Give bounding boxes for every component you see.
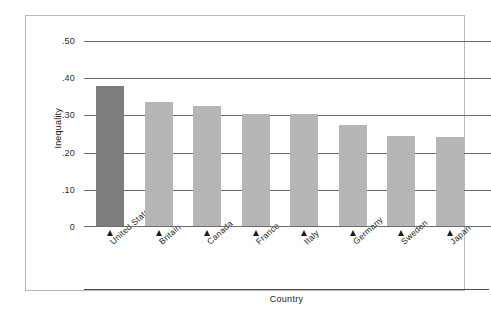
bar (96, 86, 124, 227)
bar-group: Canada (193, 41, 221, 227)
gridline: 0 (84, 227, 491, 228)
bar-group: Italy (290, 41, 318, 227)
bar (145, 102, 173, 227)
y-tick-label: .40 (62, 73, 75, 83)
bar-group: Germany (339, 41, 367, 227)
y-tick-label: 0 (70, 222, 75, 232)
y-tick-label: .50 (62, 36, 75, 46)
bar-group: Japan (436, 41, 464, 227)
y-tick-label: .30 (62, 110, 75, 120)
bar (436, 137, 464, 227)
bar (242, 114, 270, 227)
bar-group: France (242, 41, 270, 227)
bar (290, 114, 318, 227)
bar (339, 125, 367, 227)
bar-group: United States (96, 41, 124, 227)
y-tick-label: .20 (62, 148, 75, 158)
bar (193, 106, 221, 227)
bar-group: Britain (145, 41, 173, 227)
x-axis-rule (84, 289, 489, 290)
bar-group: Sweden (387, 41, 415, 227)
bar (387, 136, 415, 227)
chart-frame: Inequality .50.40.30.20.100 United State… (25, 15, 465, 291)
y-tick-label: .10 (62, 185, 75, 195)
x-axis-title: Country (84, 294, 489, 304)
plot-area: .50.40.30.20.100 United StatesBritainCan… (84, 41, 491, 227)
bar-series: United StatesBritainCanadaFranceItalyGer… (84, 41, 491, 227)
x-axis-line (84, 226, 491, 227)
